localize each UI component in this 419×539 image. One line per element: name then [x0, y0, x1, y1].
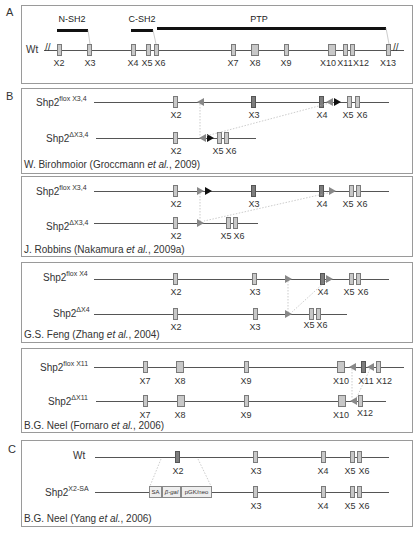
domain-label-c-sh2: C-SH2: [128, 14, 155, 24]
exon-label: X12: [353, 58, 369, 68]
domain-label-ptp: PTP: [250, 14, 268, 24]
exon-x5: [146, 44, 151, 56]
exon-label: X2: [170, 287, 181, 297]
exon-label: X2: [170, 231, 181, 241]
exon-label: X5: [303, 320, 314, 330]
cassette-pgk-neo: pGK/neo: [181, 486, 212, 498]
exon-label: X2: [170, 146, 181, 156]
cassette-beta-gal: β-gal: [162, 486, 181, 498]
exon-label: X2: [170, 322, 181, 332]
exon-label: X3: [250, 501, 261, 511]
allele-label-delta: Shp2ΔX3,4: [46, 219, 88, 232]
credit-text: W. Birohmoior (Groccmann et al., 2009): [24, 159, 200, 170]
exon-label: X9: [240, 410, 251, 420]
domain-bar-ptp: [157, 27, 386, 30]
wt-label-a: Wt: [26, 44, 38, 55]
exon-x4: [319, 96, 324, 108]
exon-x11: [361, 361, 366, 373]
exon-label: X5: [141, 58, 152, 68]
exon-x3: [253, 486, 258, 498]
exon-x5: [309, 308, 314, 320]
exon-label: X3: [249, 287, 260, 297]
exon-label: X4: [317, 287, 328, 297]
allele-label-delta: Shp2ΔX4: [53, 306, 90, 319]
exon-x5: [347, 96, 352, 108]
allele-label-x2-sa: Shp2X2-SA: [45, 485, 89, 498]
panel-letter-c: C: [8, 443, 16, 455]
exon-label: X6: [358, 501, 369, 511]
panel-letter-b: B: [6, 90, 13, 102]
exon-label: X12: [357, 408, 373, 418]
exon-label: X10: [320, 58, 336, 68]
exon-x5: [349, 185, 354, 197]
domain-bar-c-sh2: [131, 29, 153, 32]
exon-x3: [87, 44, 92, 56]
exon-label: X4: [317, 466, 328, 476]
exon-label: X5: [220, 231, 231, 241]
exon-label: X13: [380, 58, 396, 68]
exon-label: X3: [250, 466, 261, 476]
gene-line: [94, 102, 389, 103]
exon-x4: [319, 185, 324, 197]
exon-x3: [253, 451, 258, 463]
exon-label: X6: [316, 320, 327, 330]
exon-label: X10: [333, 376, 349, 386]
allele-label-flox: Shp2flox X3,4: [36, 95, 87, 108]
exon-label: X9: [240, 376, 251, 386]
exon-x3: [251, 96, 256, 108]
exon-label: X10: [333, 410, 349, 420]
credit-text: B.G. Neel (Yang et al., 2006): [24, 513, 152, 524]
break-mark-icon: //: [45, 42, 51, 53]
exon-x7: [143, 361, 148, 373]
exon-x6: [233, 217, 238, 229]
exon-label: X3: [248, 110, 259, 120]
exon-x2: [173, 217, 178, 229]
exon-x6: [154, 44, 159, 56]
exon-x3: [253, 308, 258, 320]
exon-x4: [320, 273, 325, 285]
exon-label: X6: [154, 58, 165, 68]
exon-x4: [321, 451, 326, 463]
credit-text: G.S. Feng (Zhang et al., 2004): [24, 329, 160, 340]
exon-label: X6: [358, 466, 369, 476]
exon-label: X4: [316, 110, 327, 120]
exon-x3: [252, 273, 257, 285]
gene-line: [94, 367, 404, 368]
exon-label: X3: [249, 322, 260, 332]
gene-line: [94, 191, 389, 192]
exon-x6: [357, 486, 362, 498]
exon-label: X5: [343, 287, 354, 297]
exon-label: X6: [225, 146, 236, 156]
exon-x11: [343, 44, 348, 56]
exon-label: X2: [172, 466, 183, 476]
exon-x4: [321, 486, 326, 498]
exon-x7: [231, 44, 236, 56]
exon-label: X2: [53, 58, 64, 68]
exon-label: X9: [280, 58, 291, 68]
allele-label-flox: Shp2flox X4: [43, 270, 88, 283]
panel-letter-a: A: [6, 6, 13, 18]
exon-x9: [284, 44, 289, 56]
exon-x5: [349, 273, 354, 285]
exon-x12: [350, 44, 355, 56]
exon-x8: [176, 361, 184, 373]
allele-label-flox: Shp2flox X3,4: [36, 184, 87, 197]
exon-x2: [173, 96, 178, 108]
exon-label: X6: [356, 110, 367, 120]
exon-x13: [386, 44, 391, 56]
exon-label: X5: [344, 466, 355, 476]
cassette-sa: SA: [149, 486, 162, 498]
exon-label: X2: [170, 110, 181, 120]
exon-label: X6: [357, 287, 368, 297]
exon-label: X8: [249, 58, 260, 68]
exon-x5: [350, 486, 355, 498]
allele-label-delta: Shp2ΔX11: [48, 394, 88, 407]
allele-label-flox: Shp2flox X11: [40, 360, 88, 373]
exon-x12: [358, 395, 363, 407]
exon-x5: [217, 132, 222, 144]
exon-x9: [244, 361, 249, 373]
exon-label: X3: [84, 58, 95, 68]
exon-x6: [357, 451, 362, 463]
exon-label: X8: [174, 376, 185, 386]
exon-label: X4: [316, 199, 327, 209]
